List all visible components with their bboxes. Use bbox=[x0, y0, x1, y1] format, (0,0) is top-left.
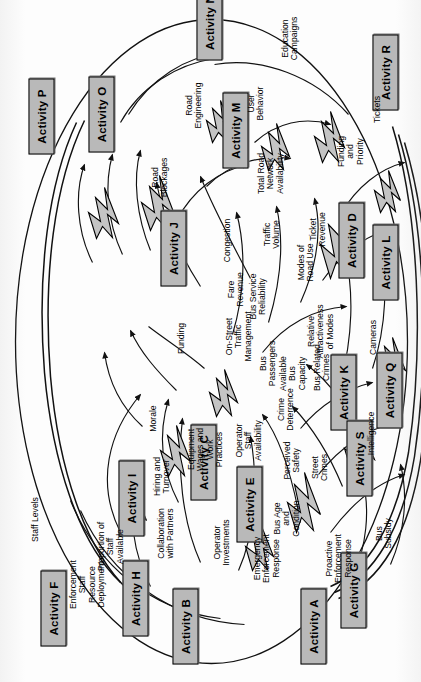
activity-label-b: Activity B bbox=[179, 598, 191, 653]
activity-box-m[interactable]: Activity M bbox=[222, 92, 248, 168]
variable-road-engineering: Road Engineering bbox=[184, 82, 203, 128]
activity-label-p: Activity P bbox=[35, 89, 47, 143]
bolt-icon bbox=[374, 170, 400, 212]
variable-education-campaigns: Education Campaigns bbox=[280, 12, 299, 64]
activity-box-f[interactable]: Activity F bbox=[40, 570, 66, 646]
variable-fare-revenue: Fare Revenue bbox=[226, 268, 245, 310]
variable-funding: Funding bbox=[176, 316, 185, 360]
variable-street-crimes: Street Crimes bbox=[310, 446, 329, 488]
variable-proportion-of-staff-available: Proportion of Staff Available bbox=[96, 518, 124, 574]
diagram-canvas: Activity A Activity B Activity C Activit… bbox=[0, 0, 421, 682]
activity-label-l: Activity L bbox=[379, 235, 391, 289]
variable-total-road-network-availability: Total Road Network Availability bbox=[256, 146, 284, 200]
variable-bus-service-reliability: Bus Service Reliability bbox=[248, 268, 267, 324]
activity-box-q[interactable]: Activity Q bbox=[376, 352, 402, 428]
activity-box-h[interactable]: Activity H bbox=[122, 560, 148, 636]
variable-tickets: Tickets bbox=[372, 88, 381, 130]
variable-user-behavior: User Behavior bbox=[246, 82, 265, 124]
variable-emergency-enforcement-response: Emergency Enforcement Response bbox=[252, 530, 280, 586]
variable-operator-investments: Operator Investments bbox=[212, 516, 231, 568]
variable-road-blockages: Road Blockages bbox=[150, 154, 169, 200]
variable-bus-passengers: Bus Passengers bbox=[258, 340, 277, 386]
variable-perceived-safety: Perceived Safety bbox=[282, 436, 301, 484]
activity-label-q: Activity Q bbox=[383, 362, 395, 418]
activity-box-b[interactable]: Activity B bbox=[172, 588, 198, 664]
variable-proactive-enforcement-response: Proactive Enforcement Response bbox=[324, 530, 352, 586]
activity-label-e: Activity E bbox=[243, 477, 255, 531]
activity-box-p[interactable]: Activity P bbox=[28, 78, 54, 154]
variable-operator-staff-availability: Operator Staff Availability bbox=[234, 414, 262, 466]
variable-staff-levels: Staff Levels bbox=[30, 490, 39, 548]
activity-label-j: Activity J bbox=[167, 221, 179, 274]
activity-label-i: Activity I bbox=[125, 473, 137, 523]
variable-crime-deterrence: Crime Deterrence bbox=[276, 384, 295, 434]
activity-box-o[interactable]: Activity O bbox=[88, 76, 114, 152]
activity-label-n: Activity N bbox=[203, 0, 215, 50]
activity-box-d[interactable]: Activity D bbox=[338, 202, 364, 278]
variable-intelligence: Intelligence bbox=[366, 404, 375, 462]
activity-label-m: Activity M bbox=[229, 102, 241, 158]
activity-label-o: Activity O bbox=[95, 86, 107, 142]
activity-label-d: Activity D bbox=[345, 212, 357, 267]
variable-traffic-volume: Traffic Volume bbox=[262, 212, 281, 256]
activity-box-a[interactable]: Activity A bbox=[300, 588, 326, 664]
variable-congestion: Congestion bbox=[222, 212, 231, 268]
activity-label-h: Activity H bbox=[129, 570, 141, 625]
activity-box-l[interactable]: Activity L bbox=[372, 224, 398, 300]
activity-box-n[interactable]: Activity N bbox=[196, 0, 222, 60]
variable-funding-and-priority: Funding and Priority bbox=[336, 130, 364, 172]
variable-equipment-wages-work-practices: Equipment Wages and Work Practices bbox=[186, 422, 224, 476]
bolt-icon bbox=[88, 187, 118, 238]
variable-bus-subsidy: Bus Subsidy bbox=[374, 512, 393, 554]
activity-box-k[interactable]: Activity K bbox=[330, 354, 356, 430]
variable-bus-related-crimes: Bus Related Crimes bbox=[312, 342, 331, 392]
variable-collaboration-with-partners: Collaboration with Partners bbox=[156, 500, 175, 566]
bolt-icon bbox=[209, 369, 237, 416]
activity-box-j[interactable]: Activity J bbox=[160, 210, 186, 286]
variable-morale: Morale bbox=[148, 398, 157, 438]
variable-cameras: Cameras bbox=[368, 314, 377, 360]
variable-hiring-and-turnover: Hiring and Turnover bbox=[152, 450, 171, 502]
diagram-rotated-layer: Activity A Activity B Activity C Activit… bbox=[0, 0, 421, 682]
activity-label-s: Activity S bbox=[353, 431, 365, 485]
variable-ticket-revenue: Ticket Revenue bbox=[308, 208, 327, 250]
activity-label-k: Activity K bbox=[337, 364, 349, 419]
activity-label-a: Activity A bbox=[307, 599, 319, 654]
activity-label-f: Activity F bbox=[47, 581, 59, 635]
